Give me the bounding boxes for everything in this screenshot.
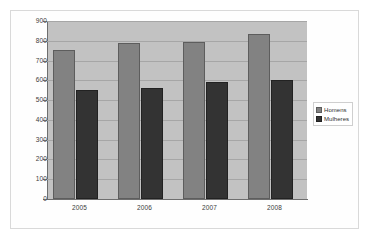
- y-tick-label: 200: [36, 156, 47, 163]
- figure-container: 0100200300400500600700800900 20052006200…: [0, 0, 372, 240]
- bar-homens-2008: [248, 34, 270, 199]
- y-tick-label: 600: [36, 77, 47, 84]
- y-tick-label: 400: [36, 117, 47, 124]
- y-tick-label: 800: [36, 38, 47, 45]
- bar-chart: 0100200300400500600700800900 20052006200…: [0, 0, 372, 240]
- bar-homens-2007: [183, 42, 205, 199]
- bar-mulheres-2006: [141, 88, 163, 199]
- y-tick-label: 300: [36, 137, 47, 144]
- legend-label-homens: Homens: [324, 107, 347, 113]
- bar-homens-2005: [53, 50, 75, 199]
- bar-mulheres-2007: [206, 82, 228, 199]
- legend-swatch-mulheres: [316, 116, 322, 122]
- legend-label-mulheres: Mulheres: [324, 116, 349, 122]
- gridline: [47, 21, 307, 22]
- y-tick-label: 0: [43, 196, 47, 203]
- y-tick-label: 500: [36, 97, 47, 104]
- bar-mulheres-2008: [271, 80, 293, 199]
- bar-homens-2006: [118, 43, 140, 199]
- x-tick-label: 2007: [177, 205, 242, 212]
- y-axis-line: [47, 21, 48, 200]
- bar-mulheres-2005: [76, 90, 98, 199]
- y-tick-label: 900: [36, 18, 47, 25]
- y-tick-label: 100: [36, 176, 47, 183]
- legend-item: Homens: [316, 105, 350, 114]
- y-tick-label: 700: [36, 58, 47, 65]
- x-axis-line: [47, 199, 308, 200]
- chart-legend: Homens Mulheres: [313, 102, 353, 126]
- legend-swatch-homens: [316, 107, 322, 113]
- x-tick-label: 2008: [242, 205, 307, 212]
- legend-item: Mulheres: [316, 114, 350, 123]
- x-tick-label: 2006: [112, 205, 177, 212]
- x-tick-label: 2005: [47, 205, 112, 212]
